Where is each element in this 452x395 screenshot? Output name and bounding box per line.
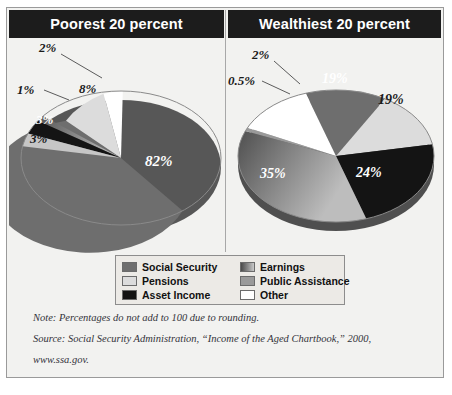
source-text-line2: www.ssa.gov.: [33, 353, 429, 367]
pie-chart-wealthiest: 2% 0.5% 19% 19% 24% 35%: [226, 38, 441, 253]
pie-label-earnings-right: 35%: [259, 166, 286, 181]
legend-item-social-security: Social Security: [122, 261, 240, 273]
legend-swatch-public-assistance-icon: [240, 276, 255, 286]
note-text: Note: Percentages do not add to 100 due …: [33, 311, 429, 325]
panel-header-poorest: Poorest 20 percent: [9, 10, 224, 38]
legend-item-earnings: Earnings: [240, 261, 349, 273]
legend-item-public-assistance: Public Assistance: [240, 275, 349, 287]
leader-05pct-right: [262, 81, 290, 94]
legend-swatch-other-icon: [240, 290, 255, 300]
legend-swatch-social-security-icon: [122, 262, 137, 272]
source-text-line1: Source: Social Security Administration, …: [33, 332, 429, 346]
legend-item-other: Other: [240, 289, 349, 301]
legend-label-pensions: Pensions: [142, 275, 189, 287]
figure-notes: Note: Percentages do not add to 100 due …: [33, 311, 429, 368]
legend-label-asset-income: Asset Income: [142, 289, 210, 301]
legend-label-other: Other: [260, 289, 288, 301]
pie-label-other-right: 2%: [251, 47, 270, 62]
pie-label-social-security-left: 82%: [145, 153, 173, 169]
pie-label-earnings-left: 1%: [17, 82, 35, 97]
pie-label-pensions-right: 19%: [378, 92, 404, 107]
panel-title-left: Poorest 20 percent: [50, 16, 182, 32]
leader-2pct-left: [61, 54, 102, 78]
panel-header-wealthiest: Wealthiest 20 percent: [228, 10, 441, 38]
chart-legend: Social Security Earnings Pensions Public…: [115, 255, 345, 305]
panel-title-right: Wealthiest 20 percent: [259, 16, 410, 32]
legend-swatch-asset-income-icon: [122, 290, 137, 300]
legend-item-pensions: Pensions: [122, 275, 240, 287]
pie-label-social-security-right: 19%: [322, 71, 348, 86]
leader-2pct-right: [274, 61, 300, 84]
legend-item-asset-income: Asset Income: [122, 289, 240, 301]
pie-chart-poorest: 2% 1% 3% 3% 8% 82%: [9, 38, 225, 253]
pie-label-asset-income-right: 24%: [355, 165, 382, 180]
pie-label-asset-income-left: 3%: [35, 112, 54, 127]
legend-swatch-pensions-icon: [122, 276, 137, 286]
figure-container: Poorest 20 percent Wealthiest 20 percent: [6, 7, 444, 378]
pie-label-public-assistance-right: 0.5%: [228, 73, 255, 88]
legend-swatch-earnings-icon: [240, 262, 255, 272]
legend-label-earnings: Earnings: [260, 261, 305, 273]
pie-label-other-left: 2%: [38, 40, 57, 55]
legend-label-social-security: Social Security: [142, 261, 217, 273]
pie-label-public-assistance-left: 3%: [29, 131, 48, 146]
pie-label-pensions-left: 8%: [79, 81, 97, 96]
leader-1pct-left: [44, 90, 69, 100]
legend-label-public-assistance: Public Assistance: [260, 275, 349, 287]
